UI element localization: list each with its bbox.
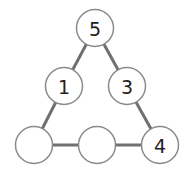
node-bottom-middle: [79, 127, 116, 164]
node-label-mid-right: 3: [121, 76, 133, 98]
triangle-diagram: 5 1 3 4: [0, 0, 191, 178]
node-bottom-left: [16, 127, 53, 164]
node-label-mid-left: 1: [58, 76, 70, 98]
node-label-top: 5: [89, 18, 101, 40]
node-label-bottom-right: 4: [154, 135, 166, 157]
